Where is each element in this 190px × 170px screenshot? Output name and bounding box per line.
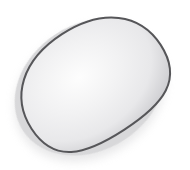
egg-illustration — [0, 0, 190, 170]
illustration-canvas — [0, 0, 190, 170]
egg-body — [0, 0, 189, 170]
